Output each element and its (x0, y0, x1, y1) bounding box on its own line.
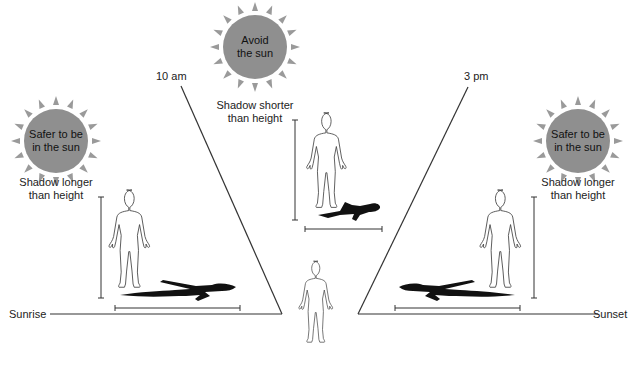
height-bar-midday (292, 120, 298, 220)
sun-shadow-diagram: Safer to be in the sun Shadow longer tha… (0, 0, 635, 366)
label-3pm: 3 pm (464, 70, 488, 83)
person-afternoon (480, 190, 521, 287)
sun-text-morning: Safer to be in the sun (24, 128, 88, 154)
sun-label-line1: Safer to be (24, 128, 88, 141)
sun-label-line1: Avoid (223, 34, 287, 47)
caption-afternoon: Shadow longer than height (528, 176, 628, 202)
shadow-afternoon (399, 280, 515, 301)
person-midday (307, 113, 346, 207)
sun-label-line2: in the sun (24, 141, 88, 154)
shadow-length-bar-midday (305, 226, 382, 232)
caption-line2: than height (528, 189, 628, 202)
height-bar-morning (98, 197, 104, 298)
caption-line1: Shadow longer (6, 176, 106, 189)
shadow-length-bar-morning (115, 305, 240, 311)
sun-label-line2: the sun (223, 47, 287, 60)
three-pm-ray-line (358, 87, 468, 314)
height-bar-afternoon (531, 197, 537, 298)
sun-text-afternoon: Safer to be in the sun (546, 128, 610, 154)
caption-line1: Shadow longer (528, 176, 628, 189)
person-noon (299, 261, 333, 342)
caption-morning: Shadow longer than height (6, 176, 106, 202)
caption-line2: than height (205, 112, 305, 125)
shadow-length-bar-afternoon (395, 305, 520, 311)
label-10am: 10 am (156, 70, 187, 83)
person-morning (109, 190, 150, 287)
sun-label-line2: in the sun (546, 141, 610, 154)
caption-midday: Shadow shorter than height (205, 99, 305, 125)
caption-line1: Shadow shorter (205, 99, 305, 112)
sun-label-line1: Safer to be (546, 128, 610, 141)
sun-text-midday: Avoid the sun (223, 34, 287, 60)
label-sunrise: Sunrise (9, 308, 46, 321)
label-sunset: Sunset (593, 308, 627, 321)
shadow-midday (318, 202, 380, 221)
caption-line2: than height (6, 189, 106, 202)
